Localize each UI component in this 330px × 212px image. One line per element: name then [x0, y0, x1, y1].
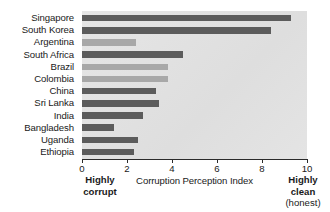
- bar-row: [82, 24, 307, 36]
- bar: [82, 64, 168, 71]
- bar: [82, 112, 143, 119]
- bar: [82, 39, 136, 46]
- y-axis-label: China: [0, 85, 78, 97]
- axis-caption-right-line1: Highly: [276, 174, 330, 186]
- bar-row: [82, 146, 307, 158]
- plot-area: [82, 11, 307, 159]
- axis-caption-right-line3: (honest): [276, 197, 330, 209]
- bar: [82, 137, 138, 144]
- x-axis-tick-label: 4: [169, 163, 174, 174]
- x-axis-tick-label: 6: [214, 163, 219, 174]
- y-axis-label: Argentina: [0, 36, 78, 48]
- y-axis-label: Singapore: [0, 12, 78, 24]
- y-axis-label: Ethiopia: [0, 146, 78, 158]
- bar: [82, 88, 156, 95]
- y-axis-label: Brazil: [0, 61, 78, 73]
- bar-row: [82, 61, 307, 73]
- bar: [82, 51, 183, 58]
- axis-caption-right-line2: clean: [276, 186, 330, 198]
- bar-row: [82, 36, 307, 48]
- y-axis-label: Bangladesh: [0, 122, 78, 134]
- bar: [82, 27, 271, 34]
- bar-row: [82, 85, 307, 97]
- x-axis-tick-label: 10: [302, 163, 313, 174]
- bar-row: [82, 73, 307, 85]
- bar-series: [82, 12, 307, 158]
- bar-row: [82, 109, 307, 121]
- bar: [82, 76, 168, 83]
- bar: [82, 15, 291, 22]
- axis-caption-left-line2: corrupt: [72, 186, 128, 198]
- y-axis-label: Sri Lanka: [0, 97, 78, 109]
- bar: [82, 149, 134, 156]
- x-axis-tick-label: 2: [124, 163, 129, 174]
- bar-row: [82, 49, 307, 61]
- y-axis-label: Uganda: [0, 134, 78, 146]
- y-axis-label: India: [0, 110, 78, 122]
- y-axis-label: Colombia: [0, 73, 78, 85]
- y-axis-label: South Africa: [0, 49, 78, 61]
- bar-row: [82, 134, 307, 146]
- corruption-perception-index-chart: Singapore South Korea Argentina South Af…: [0, 0, 330, 212]
- axis-caption-left-line1: Highly: [72, 174, 128, 186]
- bar-row: [82, 97, 307, 109]
- x-axis-tick-label: 0: [79, 163, 84, 174]
- x-axis-tick-label: 8: [259, 163, 264, 174]
- axis-caption-right: Highly clean (honest): [276, 174, 330, 209]
- bar-row: [82, 12, 307, 24]
- y-axis-label: South Korea: [0, 24, 78, 36]
- x-axis-line: [82, 159, 308, 160]
- bar: [82, 124, 114, 131]
- bar-row: [82, 122, 307, 134]
- y-axis-category-labels: Singapore South Korea Argentina South Af…: [0, 12, 78, 158]
- bar: [82, 100, 159, 107]
- axis-caption-left: Highly corrupt: [72, 174, 128, 197]
